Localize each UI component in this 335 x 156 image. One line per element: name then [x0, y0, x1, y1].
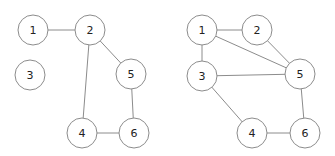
node-label: 2	[87, 24, 94, 37]
node-label: 2	[254, 24, 261, 37]
node-2: 2	[75, 15, 105, 45]
node-3: 3	[187, 61, 217, 91]
node-6: 6	[290, 118, 320, 148]
node-label: 1	[30, 24, 37, 37]
node-4: 4	[237, 118, 267, 148]
node-label: 4	[79, 127, 86, 140]
node-5: 5	[285, 59, 315, 89]
node-label: 6	[302, 127, 309, 140]
node-4: 4	[67, 118, 97, 148]
node-5: 5	[116, 59, 146, 89]
node-1: 1	[18, 15, 48, 45]
right-graph: 123546	[187, 15, 320, 148]
node-2: 2	[242, 15, 272, 45]
node-label: 1	[199, 24, 206, 37]
node-label: 6	[131, 127, 138, 140]
node-label: 5	[297, 68, 304, 81]
node-3: 3	[15, 60, 45, 90]
node-1: 1	[187, 15, 217, 45]
node-label: 3	[199, 70, 206, 83]
graph-diagram: 123546123546	[0, 0, 335, 156]
node-label: 5	[128, 68, 135, 81]
node-label: 4	[249, 127, 256, 140]
node-6: 6	[119, 118, 149, 148]
node-label: 3	[27, 69, 34, 82]
left-graph: 123546	[15, 15, 149, 148]
